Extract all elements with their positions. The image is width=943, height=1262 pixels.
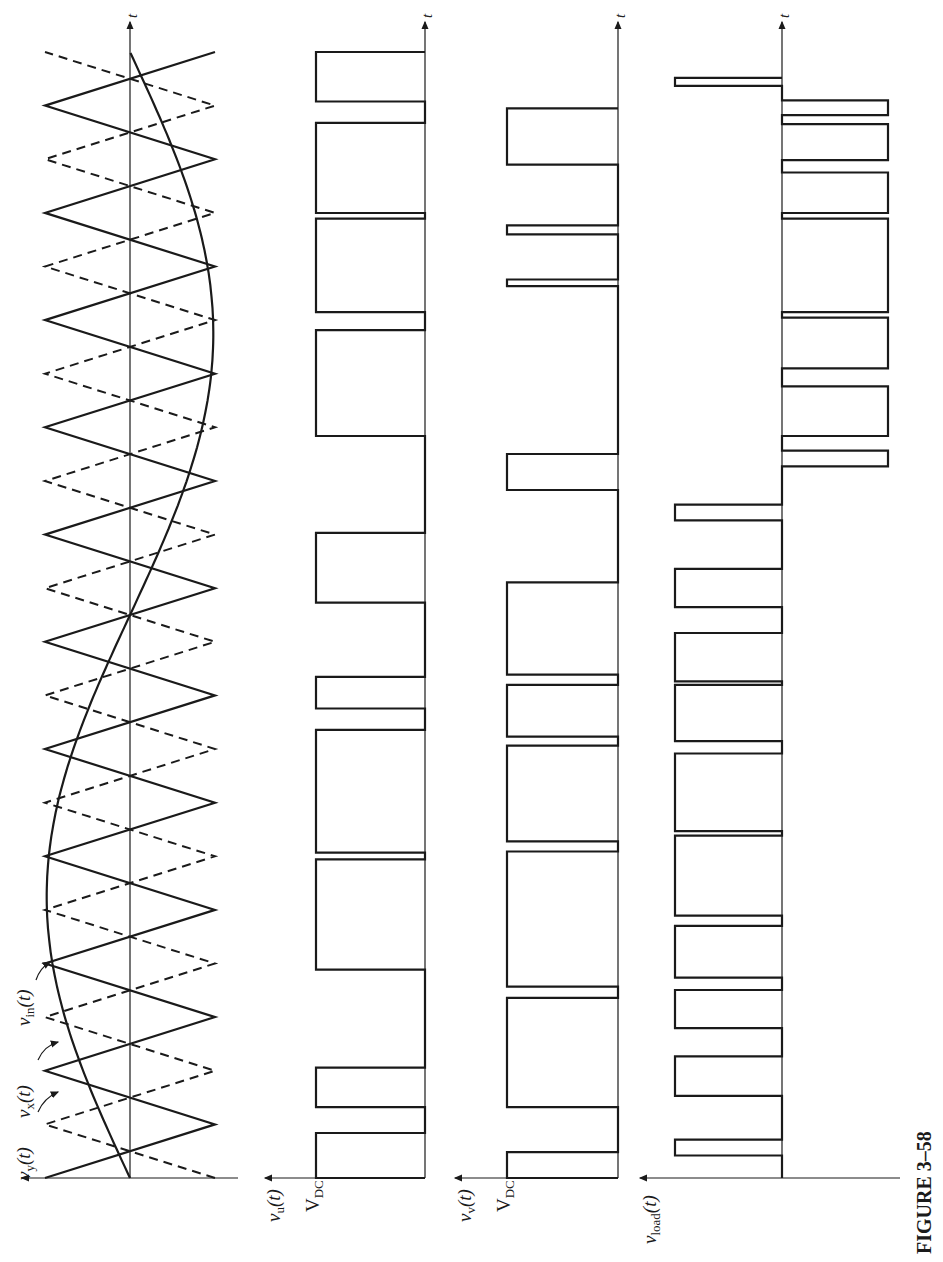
time-label-vu: t — [419, 14, 436, 18]
label-vv: vv(t) — [455, 1189, 477, 1222]
time-label-vload: t — [776, 14, 793, 18]
pulse-waveform — [507, 108, 618, 1178]
label-vload: vload(t) — [640, 1195, 662, 1244]
label-vdc-u: VDC — [303, 1180, 325, 1212]
time-label-vv: t — [612, 14, 629, 18]
label-vu: vu(t) — [264, 1189, 286, 1222]
vv-panel — [455, 22, 618, 1178]
carrier-panel — [22, 22, 238, 1178]
figure-caption: FIGURE 3–58 — [913, 1131, 936, 1254]
vu-panel — [265, 22, 425, 1178]
vy-leader — [38, 1092, 58, 1112]
label-vx: vx(t) — [14, 1085, 36, 1118]
label-vy: vy(t) — [14, 1147, 36, 1180]
figure-canvas — [0, 0, 943, 1262]
label-vin: vin(t) — [14, 990, 36, 1027]
time-label-carriers: t — [124, 14, 141, 18]
label-vdc-v: VDC — [494, 1180, 516, 1212]
vload-panel — [640, 22, 900, 1178]
pulse-waveform — [316, 52, 425, 1178]
vx-leader — [38, 1042, 58, 1060]
